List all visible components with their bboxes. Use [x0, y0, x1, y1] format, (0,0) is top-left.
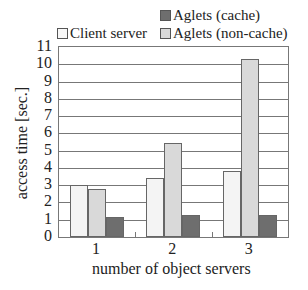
bar-client-server-2 [146, 178, 164, 237]
bar-aglets-cache-2 [182, 215, 200, 237]
x-tick-mark [135, 232, 136, 237]
y-axis-label: access time [sec.] [13, 87, 31, 199]
legend-item-aglets-cache: Aglets (cache) [160, 7, 260, 23]
x-tick-label: 3 [239, 240, 259, 258]
legend-swatch-aglets-cache [160, 10, 171, 21]
plot-area [58, 46, 289, 238]
bar-aglets-cache-1 [106, 217, 124, 237]
bar-client-server-3 [223, 171, 241, 237]
y-tick-label: 0 [26, 228, 52, 244]
x-axis-label: number of object servers [92, 260, 251, 278]
y-tick-label: 10 [26, 55, 52, 71]
legend-label-aglets-noncache: Aglets (non-cache) [173, 25, 288, 41]
x-tick-mark [212, 232, 213, 237]
y-tick-label: 1 [26, 211, 52, 227]
legend-item-aglets-noncache: Aglets (non-cache) [160, 25, 288, 41]
bar-aglets-non-cache-3 [241, 59, 259, 237]
bar-client-server-1 [70, 185, 88, 237]
bar-aglets-non-cache-1 [88, 189, 106, 237]
legend-item-client-server: Client server [57, 25, 147, 41]
x-tick-label: 2 [162, 240, 182, 258]
x-tick-label: 1 [86, 240, 106, 258]
legend-label-aglets-cache: Aglets (cache) [173, 7, 260, 23]
legend-swatch-client-server [57, 28, 68, 39]
bar-aglets-cache-3 [259, 215, 277, 237]
legend-label-client-server: Client server [70, 25, 147, 41]
y-tick-label: 11 [26, 38, 52, 54]
legend-swatch-aglets-noncache [160, 28, 171, 39]
bar-aglets-non-cache-2 [164, 143, 182, 237]
